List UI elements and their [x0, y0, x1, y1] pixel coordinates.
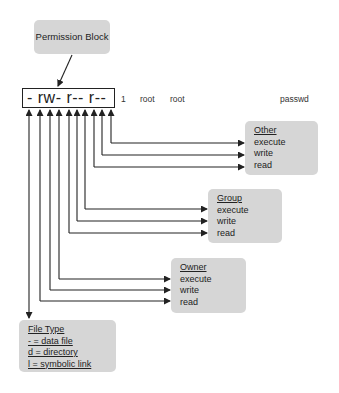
owner-read: read	[180, 297, 246, 309]
link-count: 1	[121, 94, 126, 104]
owner-permissions-box: Owner execute write read	[171, 258, 246, 313]
other-title: Other	[254, 125, 318, 137]
file-name: passwd	[280, 94, 309, 104]
file-type-directory: d = directory	[28, 347, 116, 359]
other-write: write	[254, 148, 318, 160]
group-permissions-box: Group execute write read	[208, 189, 282, 243]
group-execute: execute	[217, 205, 282, 217]
group-title: Group	[217, 193, 282, 205]
permission-block-title: Permission Block	[36, 31, 109, 43]
group-read: read	[217, 228, 282, 240]
file-owner: root	[140, 94, 155, 104]
owner-title: Owner	[180, 262, 246, 274]
other-execute: execute	[254, 137, 318, 149]
permission-block-label: Permission Block	[34, 20, 110, 54]
other-read: read	[254, 160, 318, 172]
file-group: root	[170, 94, 185, 104]
owner-write: write	[180, 285, 246, 297]
owner-execute: execute	[180, 274, 246, 286]
permission-string: - rw- r-- r--	[22, 88, 115, 108]
other-permissions-box: Other execute write read	[245, 121, 318, 175]
file-type-symbolic-link: l = symbolic link	[28, 359, 116, 371]
group-write: write	[217, 216, 282, 228]
file-type-data-file: - = data file	[28, 336, 116, 348]
file-type-title: File Type	[28, 324, 116, 336]
file-type-box: File Type - = data file d = directory l …	[19, 320, 116, 372]
